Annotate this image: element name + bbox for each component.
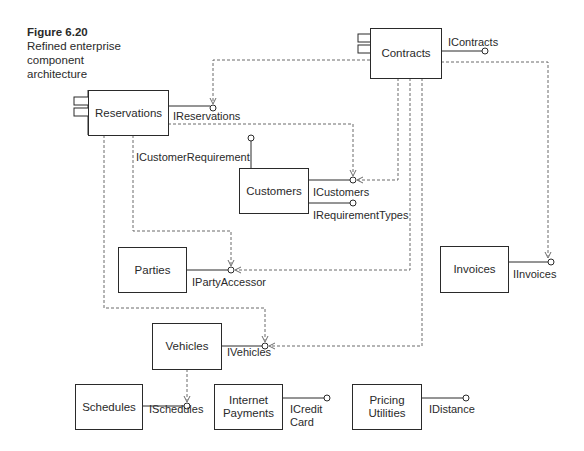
component-label: Parties	[135, 264, 171, 277]
component-internet-payments[interactable]: Internet Payments	[214, 384, 283, 430]
component-label: Customers	[246, 185, 302, 198]
interface-label-ischedules: ISchedules	[149, 403, 203, 416]
interface-label-idistance: IDistance	[429, 403, 475, 416]
component-customers[interactable]: Customers	[239, 168, 309, 214]
component-label: Pricing Utilities	[361, 394, 413, 420]
interface-label-icreditcard: ICredit Card	[290, 403, 326, 429]
component-label: Reservations	[95, 107, 162, 120]
interface-label-ivehicles: IVehicles	[227, 346, 271, 359]
component-label: Invoices	[453, 263, 495, 276]
component-label: Internet Payments	[221, 394, 276, 420]
interface-label-icontracts: IContracts	[448, 36, 498, 49]
component-invoices[interactable]: Invoices	[440, 246, 509, 293]
component-schedules[interactable]: Schedules	[75, 384, 143, 430]
component-vehicles[interactable]: Vehicles	[152, 323, 222, 370]
component-pricing-utilities[interactable]: Pricing Utilities	[352, 384, 422, 430]
interface-label-ipartyaccessor: IPartyAccessor	[192, 276, 266, 289]
component-parties[interactable]: Parties	[118, 247, 187, 293]
interface-label-icustomers: ICustomers	[313, 186, 369, 199]
component-label: Vehicles	[166, 340, 209, 353]
interface-label-ireservations: IReservations	[173, 110, 240, 123]
interface-label-icustomerrequirement: ICustomerRequirement	[136, 151, 250, 164]
component-reservations[interactable]: Reservations	[88, 90, 169, 136]
component-label: Contracts	[381, 47, 430, 60]
component-contracts[interactable]: Contracts	[370, 28, 442, 79]
interface-label-irequirementtypes: IRequirementTypes	[313, 209, 408, 222]
interface-label-iinvoices: IInvoices	[513, 268, 556, 281]
component-label: Schedules	[82, 401, 136, 414]
